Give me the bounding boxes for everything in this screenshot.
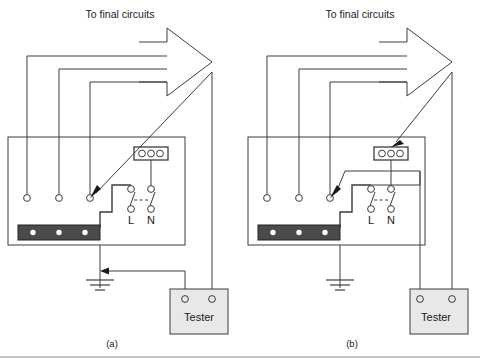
to-final-circuits-label-b: To final circuits bbox=[326, 8, 395, 20]
tester-terminal-right-b bbox=[449, 296, 456, 303]
tester-terminal-left-a bbox=[182, 296, 189, 303]
switch-l-lower-contact-a bbox=[128, 206, 135, 213]
circuit-terminal-2-b bbox=[296, 195, 303, 202]
switch-n-upper-contact-a bbox=[148, 186, 155, 193]
figure-background bbox=[0, 0, 480, 364]
tester-label-b: Tester bbox=[421, 311, 451, 323]
neutral-bar-b bbox=[258, 225, 340, 240]
earth-way-1-b bbox=[379, 150, 386, 157]
earth-way-1-a bbox=[139, 150, 146, 157]
neutral-way-2-a bbox=[56, 230, 61, 235]
switch-l-upper-contact-b bbox=[368, 186, 375, 193]
neutral-bar-a bbox=[18, 225, 100, 240]
neutral-way-1-b bbox=[270, 230, 275, 235]
switch-n-label-b: N bbox=[387, 214, 395, 226]
neutral-way-3-b bbox=[322, 230, 327, 235]
tester-label-a: Tester bbox=[184, 311, 214, 323]
switch-n-upper-contact-b bbox=[388, 186, 395, 193]
earth-terminal-block-b bbox=[374, 147, 408, 160]
switch-l-label-b: L bbox=[368, 214, 374, 226]
caption-a: (a) bbox=[106, 338, 118, 349]
switch-n-lower-contact-b bbox=[388, 206, 395, 213]
caption-b: (b) bbox=[346, 338, 358, 349]
switch-l-upper-contact-a bbox=[128, 186, 135, 193]
neutral-way-1-a bbox=[30, 230, 35, 235]
neutral-way-3-a bbox=[82, 230, 87, 235]
tester-terminal-right-a bbox=[209, 296, 216, 303]
earth-way-3-b bbox=[397, 150, 404, 157]
neutral-way-2-b bbox=[296, 230, 301, 235]
switch-l-lower-contact-b bbox=[368, 206, 375, 213]
circuit-terminal-2-a bbox=[56, 195, 63, 202]
diagram-canvas: To final circuits bbox=[0, 0, 480, 364]
wiring-diagram-figure: To final circuits bbox=[0, 0, 480, 364]
switch-n-label-a: N bbox=[147, 214, 155, 226]
to-final-circuits-label-a: To final circuits bbox=[86, 8, 155, 20]
tester-b: Tester bbox=[410, 289, 468, 334]
tester-a: Tester bbox=[170, 289, 228, 334]
earth-terminal-block-a bbox=[134, 147, 168, 160]
switch-n-lower-contact-a bbox=[148, 206, 155, 213]
circuit-terminal-1-b bbox=[264, 195, 271, 202]
tester-terminal-left-b bbox=[417, 296, 424, 303]
switch-l-label-a: L bbox=[128, 214, 134, 226]
earth-way-2-b bbox=[388, 150, 395, 157]
circuit-terminal-1-a bbox=[24, 195, 31, 202]
earth-way-3-a bbox=[157, 150, 164, 157]
earth-way-2-a bbox=[148, 150, 155, 157]
